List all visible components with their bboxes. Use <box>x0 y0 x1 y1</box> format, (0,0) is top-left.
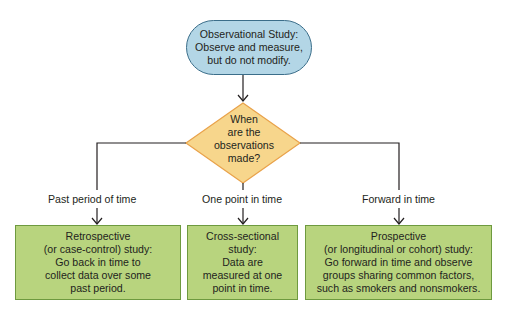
box-line: measured at one <box>203 269 283 282</box>
start-line-3: but do not modify. <box>207 54 290 67</box>
branch-label-one-point: One point in time <box>202 193 282 206</box>
retrospective-study-box: Retrospective (or case-control) study: G… <box>15 225 181 300</box>
box-line: Go forward in time and observe <box>325 256 473 269</box>
decision-line: When <box>196 113 292 126</box>
box-line: Prospective <box>371 230 426 243</box>
box-line: Retrospective <box>66 230 131 243</box>
start-line-1: Observational Study: <box>200 28 298 41</box>
box-line: Go back in time to <box>55 256 140 269</box>
box-line: (or longitudinal or cohort) study: <box>324 243 473 256</box>
box-line: collect data over some <box>45 269 151 282</box>
box-line: study: <box>228 243 256 256</box>
decision-line: are the <box>196 126 292 139</box>
box-line: Data are <box>222 256 263 269</box>
prospective-study-box: Prospective (or longitudinal or cohort) … <box>305 225 492 300</box>
box-line: (or case-control) study: <box>44 243 152 256</box>
branch-label-past: Past period of time <box>48 193 136 206</box>
box-line: such as smokers and nonsmokers. <box>317 282 481 295</box>
start-line-2: Observe and measure, <box>195 41 303 54</box>
cross-sectional-study-box: Cross-sectional study: Data are measured… <box>187 225 298 300</box>
decision-node-text: When are the observations made? <box>196 113 292 165</box>
box-line: past period. <box>70 282 125 295</box>
decision-line: made? <box>196 152 292 165</box>
branch-label-forward: Forward in time <box>362 193 435 206</box>
box-line: groups sharing common factors, <box>323 269 474 282</box>
box-line: Cross-sectional <box>206 230 279 243</box>
start-node-observational-study: Observational Study: Observe and measure… <box>186 20 312 75</box>
box-line: point in time. <box>212 282 272 295</box>
decision-line: observations <box>196 139 292 152</box>
